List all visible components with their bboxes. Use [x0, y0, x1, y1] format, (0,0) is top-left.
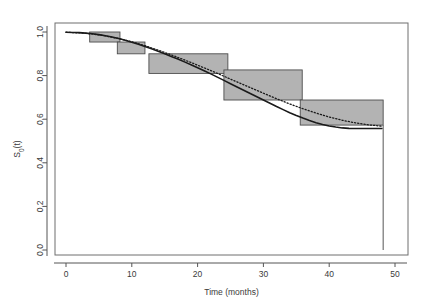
x-tick-label-3: 30 — [259, 269, 269, 279]
y-tick-label-1: 0.2 — [35, 200, 45, 212]
confidence-band-2 — [117, 42, 145, 54]
survival-plot-figure: 01020304050Time (months)0.00.20.40.60.81… — [0, 0, 430, 303]
x-tick-label-1: 10 — [127, 269, 137, 279]
x-tick-label-2: 20 — [193, 269, 203, 279]
y-axis-title: S0(t) — [12, 140, 25, 157]
y-tick-label-3: 0.6 — [35, 113, 45, 125]
x-tick-label-4: 40 — [324, 269, 334, 279]
y-axis-title-text: S0(t) — [12, 140, 25, 157]
x-tick-label-5: 50 — [390, 269, 400, 279]
x-axis-title: Time (months) — [204, 287, 259, 297]
y-tick-label-2: 0.4 — [35, 157, 45, 169]
y-tick-label-5: 1.0 — [35, 26, 45, 38]
chart-canvas: 01020304050Time (months)0.00.20.40.60.81… — [0, 0, 430, 303]
x-tick-label-0: 0 — [64, 269, 69, 279]
y-tick-label-4: 0.8 — [35, 69, 45, 81]
confidence-band-group — [90, 32, 383, 125]
plot-frame — [55, 23, 408, 255]
confidence-band-4 — [224, 70, 302, 100]
y-tick-label-0: 0.0 — [35, 244, 45, 256]
